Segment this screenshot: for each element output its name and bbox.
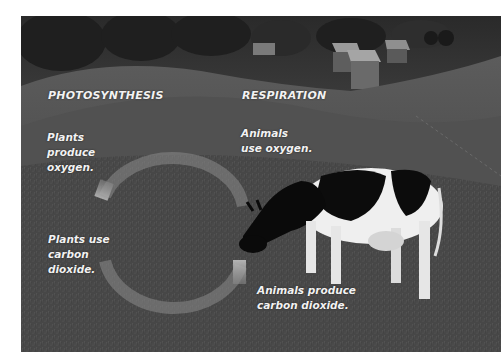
label-line: use oxygen. [241, 141, 312, 156]
heading-photosynthesis: PHOTOSYNTHESIS [48, 88, 164, 103]
label-animals-produce-co2: Animals produce carbon dioxide. [257, 283, 356, 313]
label-line: carbon dioxide. [257, 298, 356, 313]
label-line: carbon [48, 247, 110, 262]
label-line: dioxide. [48, 262, 110, 277]
label-plants-use-co2: Plants use carbon dioxide. [48, 232, 110, 277]
label-line: produce [47, 145, 95, 160]
heading-respiration: RESPIRATION [242, 88, 326, 103]
label-line: Animals [241, 126, 312, 141]
label-plants-produce-oxygen: Plants produce oxygen. [47, 130, 95, 175]
label-line: Animals produce [257, 283, 356, 298]
label-animals-use-oxygen: Animals use oxygen. [241, 126, 312, 156]
label-line: Plants [47, 130, 95, 145]
label-line: Plants use [48, 232, 110, 247]
cycle-arrow-bottom-tip [233, 260, 246, 284]
label-line: oxygen. [47, 160, 95, 175]
